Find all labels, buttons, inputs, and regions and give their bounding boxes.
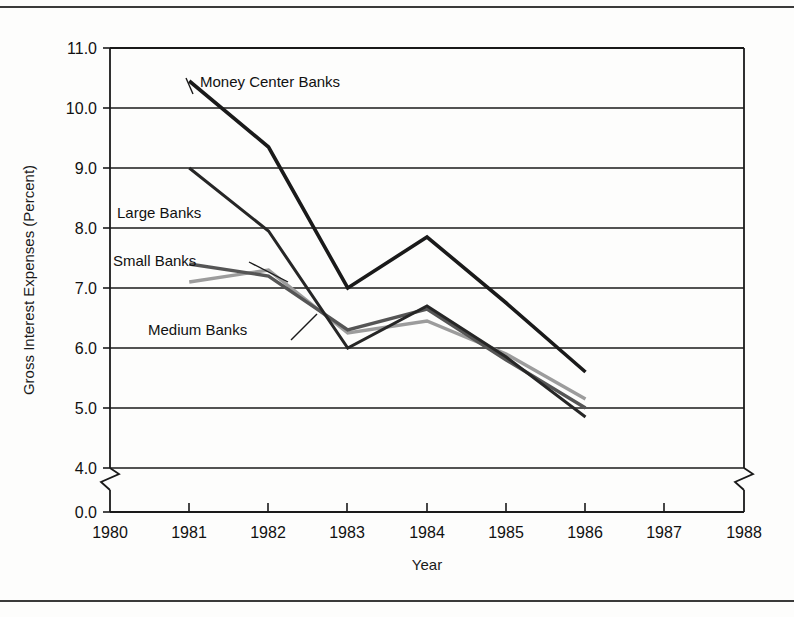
label-leader-lines [186, 78, 317, 340]
y-tick-label: 5.0 [75, 400, 97, 417]
y-tick-label: 6.0 [75, 340, 97, 357]
series-label-small-banks: Small Banks [113, 252, 196, 269]
x-tick-label: 1983 [329, 524, 365, 541]
bottom-divider-rule [0, 600, 794, 602]
x-tick-label: 1988 [726, 524, 762, 541]
series-lines [189, 81, 585, 417]
right-axis-break-icon [735, 468, 753, 490]
y-tick-label: 9.0 [75, 160, 97, 177]
x-tick-label: 1982 [250, 524, 286, 541]
line-chart-figure: 11.0 10.0 9.0 8.0 7.0 6.0 5.0 4.0 0.0 19… [0, 10, 794, 598]
x-tick-labels: 1980 1981 1982 1983 1984 1985 1986 1987 … [92, 524, 762, 541]
x-tick-label: 1980 [92, 524, 128, 541]
y-tick-label: 4.0 [75, 460, 97, 477]
series-label-large-banks: Large Banks [117, 204, 201, 221]
x-tick-label: 1986 [567, 524, 603, 541]
x-tick-label: 1981 [171, 524, 207, 541]
series-label-money-center-banks: Money Center Banks [200, 73, 340, 90]
x-axis-title: Year [412, 556, 442, 573]
chart-canvas: 11.0 10.0 9.0 8.0 7.0 6.0 5.0 4.0 0.0 19… [0, 10, 794, 598]
y-axis-break-icon [101, 468, 119, 490]
y-axis-title: Gross Interest Expenses (Percent) [20, 165, 37, 395]
series-label-medium-banks: Medium Banks [148, 321, 247, 338]
gridlines [110, 48, 744, 468]
y-tick-labels: 11.0 10.0 9.0 8.0 7.0 6.0 5.0 4.0 0.0 [66, 40, 97, 521]
y-tick-label: 8.0 [75, 220, 97, 237]
x-tickmarks [189, 503, 664, 512]
y-tick-label: 7.0 [75, 280, 97, 297]
x-tick-label: 1984 [409, 524, 445, 541]
y-tick-label: 11.0 [67, 40, 97, 57]
y-tick-label: 0.0 [75, 504, 97, 521]
series-line-large-banks[interactable] [189, 168, 585, 417]
y-tick-label: 10.0 [66, 100, 97, 117]
y-tickmarks [103, 48, 110, 512]
series-line-small-banks[interactable] [189, 264, 585, 408]
x-tick-label: 1985 [488, 524, 524, 541]
top-divider-rule [0, 6, 794, 8]
series-line-medium-banks[interactable] [189, 270, 585, 399]
x-tick-label: 1987 [646, 524, 682, 541]
